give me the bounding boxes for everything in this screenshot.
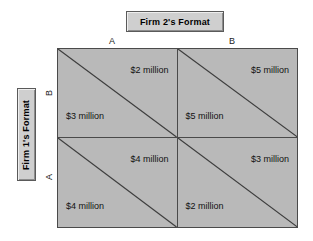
column-header-a: A bbox=[105, 36, 119, 46]
cell-diagonal-line bbox=[58, 49, 177, 137]
payoff-upper-right: $4 million bbox=[130, 154, 168, 164]
column-player-label-text: Firm 2's Format bbox=[140, 17, 210, 27]
row-player-label-box: Firm 1's Format bbox=[17, 88, 36, 181]
payoff-upper-right: $2 million bbox=[130, 65, 168, 75]
cell-diagonal-line bbox=[178, 138, 298, 227]
cell-diagonal-line bbox=[178, 49, 298, 137]
payoff-upper-right: $3 million bbox=[251, 154, 289, 164]
matrix-cell-row-b-col-b: $5 million $5 million bbox=[178, 49, 298, 138]
payoff-matrix-grid: $2 million $3 million $5 million $5 mill… bbox=[57, 48, 298, 228]
matrix-cell-row-b-col-a: $2 million $3 million bbox=[58, 49, 178, 138]
payoff-matrix-figure: Firm 2's Format Firm 1's Format A B B A … bbox=[0, 0, 313, 241]
payoff-upper-right: $5 million bbox=[251, 65, 289, 75]
column-player-label-box: Firm 2's Format bbox=[126, 11, 224, 32]
payoff-lower-left: $5 million bbox=[186, 111, 224, 121]
row-header-b: B bbox=[44, 86, 54, 100]
cell-diagonal-line bbox=[58, 138, 177, 227]
column-header-b: B bbox=[225, 36, 239, 46]
row-player-label-text: Firm 1's Format bbox=[22, 99, 32, 169]
payoff-lower-left: $3 million bbox=[66, 111, 104, 121]
matrix-cell-row-a-col-b: $3 million $2 million bbox=[178, 138, 298, 227]
row-header-a: A bbox=[44, 170, 54, 184]
payoff-lower-left: $2 million bbox=[186, 201, 224, 211]
payoff-lower-left: $4 million bbox=[66, 201, 104, 211]
matrix-cell-row-a-col-a: $4 million $4 million bbox=[58, 138, 178, 227]
